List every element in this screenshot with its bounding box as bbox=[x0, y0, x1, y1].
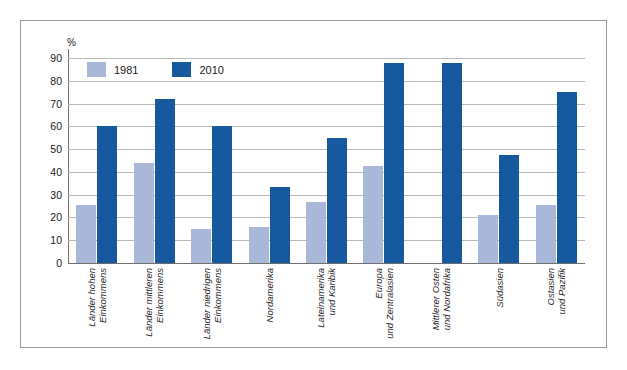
x-axis-label-line2: Einkommens bbox=[154, 268, 165, 337]
legend-swatch-1981 bbox=[87, 62, 106, 77]
bar-2010-7 bbox=[442, 63, 462, 263]
bar-2010-3 bbox=[212, 126, 232, 263]
y-axis-tick-70: 70 bbox=[50, 98, 62, 110]
bar-group-9 bbox=[528, 58, 585, 263]
legend-label-2010: 2010 bbox=[199, 64, 223, 76]
y-axis-tick-20: 20 bbox=[50, 211, 62, 223]
legend-label-1981: 1981 bbox=[114, 64, 138, 76]
x-axis-label-line2: und Pazifik bbox=[556, 268, 567, 314]
x-axis-label-line2: Einkommens bbox=[212, 268, 223, 339]
bar-group-4 bbox=[240, 58, 297, 263]
x-axis-label-line1: Länder niedrigen bbox=[201, 268, 212, 339]
chart-legend: 19812010 bbox=[87, 62, 224, 77]
x-label-cell-6: Europaund Zentralasien bbox=[355, 266, 412, 362]
x-axis-label-1: Länder hohenEinkommens bbox=[86, 268, 108, 327]
x-label-cell-5: Lateinamerikaund Karibik bbox=[298, 266, 355, 362]
plot-area: 9080706050403020100 bbox=[68, 58, 585, 263]
bar-group-1 bbox=[68, 58, 125, 263]
x-axis-label-2: Länder mittlerenEinkommens bbox=[143, 268, 165, 337]
bar-1981-6 bbox=[363, 166, 383, 263]
x-label-cell-3: Länder niedrigenEinkommens bbox=[183, 266, 240, 362]
bar-group-2 bbox=[125, 58, 182, 263]
bar-2010-9 bbox=[557, 92, 577, 263]
x-axis-label-line1: Europa bbox=[373, 268, 384, 299]
bar-2010-4 bbox=[270, 187, 290, 263]
x-axis-label-3: Länder niedrigenEinkommens bbox=[201, 268, 223, 339]
x-axis-label-line2: und Nordafrika bbox=[441, 268, 452, 330]
x-label-cell-4: Nordamerika bbox=[240, 266, 297, 362]
chart-figure-frame: % 9080706050403020100 19812010 Länder ho… bbox=[20, 20, 607, 348]
x-label-cell-2: Länder mittlerenEinkommens bbox=[125, 266, 182, 362]
bar-1981-3 bbox=[191, 229, 211, 263]
y-axis-unit-label: % bbox=[67, 37, 76, 48]
legend-item-2010: 2010 bbox=[172, 62, 223, 77]
x-axis-label-line1: Lateinamerika bbox=[315, 268, 326, 328]
bar-2010-1 bbox=[97, 126, 117, 263]
bar-1981-5 bbox=[306, 202, 326, 264]
y-axis-tick-60: 60 bbox=[50, 120, 62, 132]
x-axis-label-7: Mittlerer Ostenund Nordafrika bbox=[430, 268, 452, 330]
bar-1981-4 bbox=[249, 227, 269, 263]
bar-2010-5 bbox=[327, 138, 347, 263]
bar-2010-2 bbox=[155, 99, 175, 263]
bar-2010-8 bbox=[499, 155, 519, 263]
bar-group-7 bbox=[413, 58, 470, 263]
x-axis-label-line2: und Zentralasien bbox=[384, 268, 395, 339]
x-axis-label-5: Lateinamerikaund Karibik bbox=[315, 268, 337, 328]
x-axis-label-4: Nordamerika bbox=[264, 268, 275, 322]
x-label-cell-1: Länder hohenEinkommens bbox=[68, 266, 125, 362]
y-axis-tick-90: 90 bbox=[50, 52, 62, 64]
x-axis-label-line1: Länder mittleren bbox=[143, 268, 154, 337]
x-label-cell-8: Südasien bbox=[470, 266, 527, 362]
legend-swatch-2010 bbox=[172, 62, 191, 77]
x-axis-label-6: Europaund Zentralasien bbox=[373, 268, 395, 339]
x-axis-label-8: Südasien bbox=[493, 268, 504, 308]
bar-1981-9 bbox=[536, 205, 556, 263]
bar-group-5 bbox=[298, 58, 355, 263]
y-axis-tick-80: 80 bbox=[50, 75, 62, 87]
x-axis-label-line1: Länder hohen bbox=[86, 268, 97, 327]
x-axis-label-9: Ostasienund Pazifik bbox=[545, 268, 567, 314]
y-axis-tick-50: 50 bbox=[50, 143, 62, 155]
x-label-cell-9: Ostasienund Pazifik bbox=[528, 266, 585, 362]
legend-item-1981: 1981 bbox=[87, 62, 138, 77]
bar-groups bbox=[68, 58, 585, 263]
gridline-0: 0 bbox=[68, 263, 585, 264]
x-axis-label-line1: Mittlerer Osten bbox=[430, 268, 441, 330]
x-axis-label-line1: Südasien bbox=[493, 268, 504, 308]
y-axis-tick-10: 10 bbox=[50, 234, 62, 246]
x-axis-label-line1: Ostasien bbox=[545, 268, 556, 306]
x-axis-labels: Länder hohenEinkommensLänder mittlerenEi… bbox=[68, 266, 585, 362]
bar-group-3 bbox=[183, 58, 240, 263]
bar-1981-2 bbox=[134, 163, 154, 263]
x-label-cell-7: Mittlerer Ostenund Nordafrika bbox=[413, 266, 470, 362]
bar-group-8 bbox=[470, 58, 527, 263]
y-axis-tick-30: 30 bbox=[50, 189, 62, 201]
x-axis-label-line2: und Karibik bbox=[326, 268, 337, 328]
x-axis-label-line1: Nordamerika bbox=[264, 268, 275, 322]
y-axis-tick-40: 40 bbox=[50, 166, 62, 178]
bar-2010-6 bbox=[384, 63, 404, 263]
bar-1981-1 bbox=[76, 205, 96, 263]
bar-group-6 bbox=[355, 58, 412, 263]
bar-1981-8 bbox=[478, 215, 498, 263]
y-axis-tick-0: 0 bbox=[56, 257, 62, 269]
x-axis-label-line2: Einkommens bbox=[97, 268, 108, 327]
